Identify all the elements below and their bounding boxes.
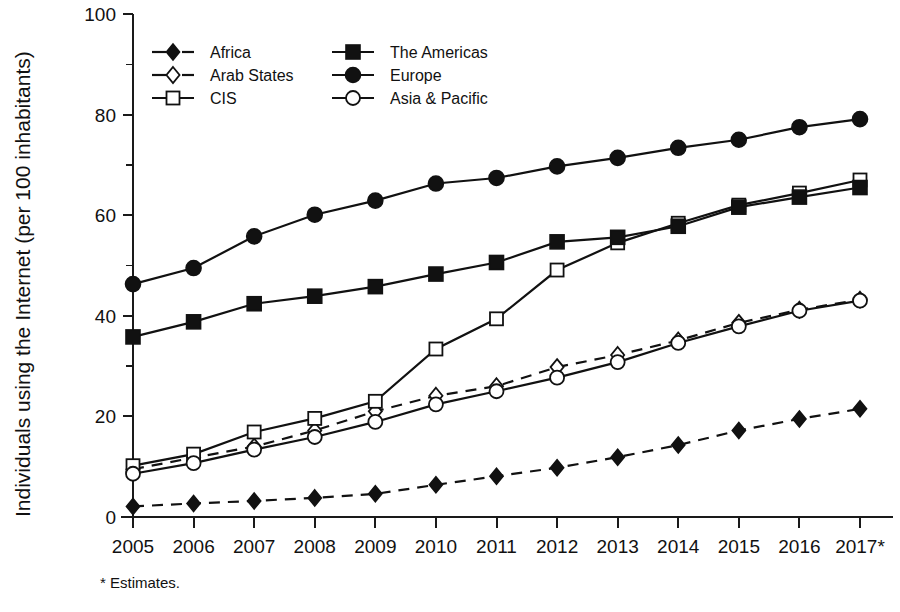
legend-marker (167, 92, 180, 105)
y-axis: 020406080100 (84, 4, 133, 528)
data-point (186, 261, 201, 276)
data-point (368, 193, 383, 208)
legend-item-europe: Europe (332, 67, 442, 84)
data-point (793, 411, 806, 427)
legend-item-the-americas: The Americas (332, 44, 488, 61)
legend-marker (346, 68, 361, 83)
data-point (792, 304, 806, 318)
data-point (307, 207, 322, 222)
data-point (369, 486, 382, 502)
x-tick-label: 2008 (294, 536, 336, 557)
data-point (368, 415, 382, 429)
legend-label: The Americas (390, 44, 488, 61)
data-point (308, 289, 322, 303)
data-point (247, 229, 262, 244)
legend-label: Africa (210, 44, 251, 61)
x-tick-label: 2016 (778, 536, 820, 557)
data-point (187, 315, 201, 329)
data-point (489, 170, 504, 185)
y-axis-label-group: Individuals using the Internet (per 100 … (11, 51, 34, 517)
x-tick-label: 2010 (415, 536, 457, 557)
data-point (187, 456, 201, 470)
data-point (490, 312, 503, 325)
data-point (308, 490, 321, 506)
data-point (672, 437, 685, 453)
legend-label: Asia & Pacific (390, 90, 488, 107)
data-point (429, 267, 443, 281)
data-point (429, 397, 443, 411)
data-point (732, 422, 745, 438)
data-point (550, 235, 564, 249)
legend-label: CIS (210, 90, 237, 107)
legend-item-cis: CIS (152, 90, 237, 107)
data-point (853, 181, 867, 195)
data-point (551, 460, 564, 476)
data-point (853, 294, 867, 308)
x-tick-label: 2009 (354, 536, 396, 557)
data-point (429, 477, 442, 493)
chart-svg: Individuals using the Internet (per 100 … (0, 0, 900, 612)
plot-area (126, 112, 868, 515)
x-tick-label: 2007 (233, 536, 275, 557)
data-point (731, 132, 746, 147)
y-tick-label: 20 (95, 406, 116, 427)
data-point (610, 150, 625, 165)
data-point (428, 176, 443, 191)
data-point (308, 430, 322, 444)
data-point (792, 120, 807, 135)
legend-marker (166, 44, 179, 60)
data-point (126, 498, 139, 514)
series-africa (126, 401, 866, 515)
y-tick-label: 100 (84, 4, 116, 25)
data-point (126, 467, 140, 481)
data-point (732, 200, 746, 214)
data-point (247, 297, 261, 311)
y-tick-label: 80 (95, 105, 116, 126)
data-point (126, 330, 140, 344)
y-tick-label: 60 (95, 205, 116, 226)
data-point (308, 412, 321, 425)
legend-label: Arab States (210, 67, 294, 84)
data-point (853, 401, 866, 417)
x-tick-label: 2014 (657, 536, 700, 557)
y-tick-label: 0 (105, 507, 116, 528)
x-tick-label: 2012 (536, 536, 578, 557)
legend-label: Europe (390, 67, 442, 84)
legend-item-africa: Africa (152, 44, 251, 61)
x-tick-label: 2017* (835, 536, 885, 557)
legend-marker (166, 67, 179, 83)
data-point (550, 371, 564, 385)
x-tick-label: 2015 (718, 536, 760, 557)
y-axis-title: Individuals using the Internet (per 100 … (11, 51, 34, 517)
data-point (490, 255, 504, 269)
data-point (853, 112, 868, 127)
data-point (429, 342, 442, 355)
legend-item-asia-pacific: Asia & Pacific (332, 90, 488, 107)
series-line (133, 409, 860, 507)
data-point (368, 280, 382, 294)
legend-item-arab-states: Arab States (152, 67, 294, 84)
data-point (248, 493, 261, 509)
data-point (248, 425, 261, 438)
data-point (611, 355, 625, 369)
legend-marker (346, 45, 360, 59)
data-point (551, 264, 564, 277)
x-tick-label: 2013 (597, 536, 639, 557)
data-point (611, 449, 624, 465)
data-point (550, 159, 565, 174)
data-point (247, 443, 261, 457)
data-point (671, 336, 685, 350)
data-point (671, 219, 685, 233)
data-point (490, 384, 504, 398)
data-point (671, 140, 686, 155)
data-point (187, 495, 200, 511)
chart-legend: AfricaArab StatesCISThe AmericasEuropeAs… (152, 44, 488, 107)
x-tick-label: 2006 (172, 536, 214, 557)
x-tick-label: 2005 (112, 536, 154, 557)
legend-marker (346, 91, 360, 105)
x-axis: 2005200620072008200920102011201220132014… (112, 517, 893, 557)
data-point (126, 277, 141, 292)
y-tick-label: 40 (95, 306, 116, 327)
data-point (369, 395, 382, 408)
footnote: * Estimates. (100, 574, 180, 591)
